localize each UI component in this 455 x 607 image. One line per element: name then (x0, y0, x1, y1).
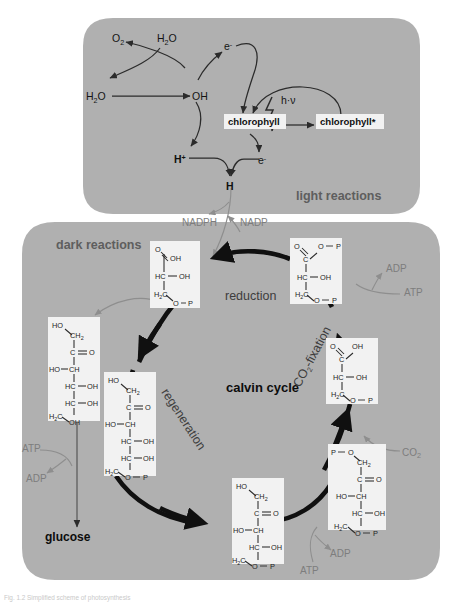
chlorophyll-label: chlorophyll (228, 116, 280, 127)
svg-text:HO: HO (336, 492, 347, 501)
svg-text:C: C (254, 509, 260, 518)
svg-text:O: O (252, 562, 258, 571)
svg-text:OH: OH (69, 418, 80, 427)
svg-text:HO: HO (236, 482, 247, 491)
figure-caption: Fig. 1.2 Simplified scheme of photosynth… (4, 594, 130, 602)
nadph-label: NADPH (182, 217, 217, 228)
svg-text:C: C (357, 475, 363, 484)
nadp-label: NADP (240, 217, 268, 228)
svg-text:P: P (270, 562, 275, 571)
molecule-glyceraldehyde-3-phosphate: O OH HC OH H2C O P (150, 241, 200, 308)
svg-text:P: P (368, 396, 373, 405)
svg-text:OH: OH (356, 373, 367, 382)
svg-text:C: C (339, 355, 345, 364)
svg-text:CH: CH (356, 492, 367, 501)
glucose-label: glucose (45, 530, 91, 544)
svg-text:P: P (373, 529, 378, 538)
svg-text:CH: CH (253, 526, 264, 535)
svg-text:HC: HC (333, 373, 344, 382)
svg-text:HC: HC (155, 272, 166, 281)
calvin-cycle-title: calvin cycle (226, 380, 299, 395)
chlorophyll-excited-label: chlorophyll* (320, 116, 376, 127)
atp-left-label: ATP (22, 443, 41, 454)
species-hydrogen: H (226, 180, 234, 192)
adp-left-label: ADP (26, 473, 47, 484)
species-oh: OH (192, 90, 208, 102)
light-reactions-label: light reactions (296, 189, 381, 203)
svg-text:HC: HC (65, 399, 76, 408)
svg-text:P: P (188, 299, 193, 308)
svg-text:HC: HC (65, 382, 76, 391)
svg-text:HO: HO (49, 365, 60, 374)
svg-text:O: O (348, 448, 354, 457)
svg-text:OH: OH (271, 543, 282, 552)
dark-reactions-label: dark reactions (56, 238, 142, 252)
svg-text:HO: HO (108, 376, 119, 385)
svg-text:OH: OH (352, 342, 363, 351)
svg-text:HC: HC (352, 509, 363, 518)
photosynthesis-diagram: O2 H2O H2O OH e- e- H+ H h·ν chlorophyll… (0, 0, 455, 607)
svg-text:P: P (331, 448, 336, 457)
svg-text:P: P (143, 473, 148, 482)
molecule-3-phosphoglycerate: O OH C HC OH H2C O P (326, 338, 378, 405)
svg-text:OH: OH (179, 272, 190, 281)
svg-text:C: C (303, 255, 309, 264)
svg-text:CH: CH (69, 365, 80, 374)
svg-text:OH: OH (374, 509, 385, 518)
svg-text:O: O (330, 342, 336, 351)
adp-right-label: ADP (386, 263, 407, 274)
svg-text:HC: HC (297, 273, 308, 282)
svg-text:C: C (126, 403, 132, 412)
svg-text:O: O (273, 509, 279, 518)
svg-text:O: O (173, 299, 179, 308)
svg-text:O: O (318, 242, 324, 251)
svg-text:HC: HC (121, 437, 132, 446)
svg-text:O: O (376, 475, 382, 484)
svg-text:P: P (332, 296, 337, 305)
svg-text:HO: HO (52, 321, 63, 330)
molecule-ribulose-5-phosphate: HO CH2 C O HO CH HC OH H2C O P (232, 478, 284, 571)
svg-text:HC: HC (121, 454, 132, 463)
svg-text:OH: OH (87, 382, 98, 391)
svg-text:O: O (350, 396, 356, 405)
svg-text:C: C (70, 348, 76, 357)
svg-text:HC: HC (249, 543, 260, 552)
figure-canvas: O2 H2O H2O OH e- e- H+ H h·ν chlorophyll… (0, 0, 455, 607)
atp-bottom-label: ATP (300, 565, 319, 576)
photon-label: h·ν (281, 94, 296, 106)
atp-right-label: ATP (404, 287, 423, 298)
svg-text:HO: HO (233, 526, 244, 535)
svg-text:P: P (336, 242, 341, 251)
svg-text:OH: OH (87, 399, 98, 408)
svg-text:O: O (314, 296, 320, 305)
svg-text:O: O (145, 403, 151, 412)
svg-text:OH: OH (143, 437, 154, 446)
molecule-ribulose-1-5-bisphosphate: P O CH2 C O HO CH HC OH H2C O P (328, 444, 386, 538)
svg-text:CH: CH (125, 420, 136, 429)
svg-text:OH: OH (143, 454, 154, 463)
svg-text:O: O (155, 245, 161, 254)
svg-text:O: O (89, 348, 95, 357)
svg-text:OH: OH (170, 254, 181, 263)
svg-text:HO: HO (105, 420, 116, 429)
molecule-fructose-6-phosphate: HO CH2 C O HO CH HC OH HC OH H2C O P (104, 372, 156, 482)
step-reduction: reduction (225, 289, 276, 303)
svg-text:O: O (125, 473, 131, 482)
svg-text:O: O (294, 242, 300, 251)
svg-text:OH: OH (320, 273, 331, 282)
svg-text:O: O (355, 529, 361, 538)
adp-bottom-label: ADP (330, 548, 351, 559)
molecule-1-3-bisphosphoglycerate: O O P C HC OH H2C O P (290, 238, 342, 305)
molecule-fructose: HO CH2 C O HO CH HC OH HC OH H2C OH (48, 317, 100, 427)
